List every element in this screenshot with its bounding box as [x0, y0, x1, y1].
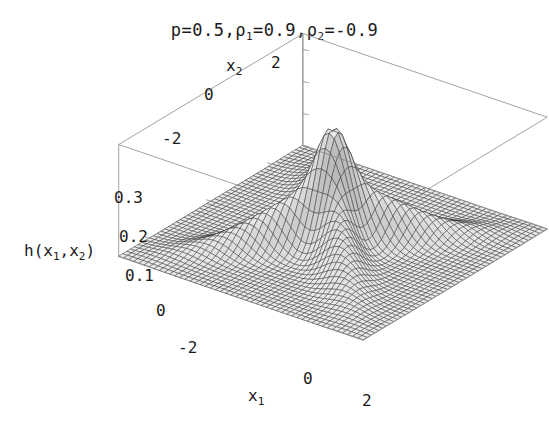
axis-label-x1: x1: [248, 388, 264, 404]
axis-label-z: h(x1,x2): [24, 243, 95, 259]
tick-x2-0: 0: [204, 87, 214, 103]
tick-z-01: 0.1: [125, 268, 154, 284]
axis-label-x2-base: x: [226, 56, 236, 75]
axis-label-x2-subscript: 2: [236, 65, 243, 78]
axis-label-x1-base: x: [248, 386, 258, 405]
tick-x1-2: 2: [362, 393, 372, 409]
axis-label-z-open: (: [34, 241, 44, 260]
tick-z-02: 0.2: [119, 229, 148, 245]
tick-x1-neg2: -2: [178, 340, 197, 356]
axis-label-x2: x2: [226, 58, 242, 74]
axis-label-x1-subscript: 1: [258, 395, 265, 408]
axis-label-z-x-first: x: [43, 241, 53, 260]
axis-label-z-subscript-1: 1: [53, 250, 60, 263]
axis-label-z-base: h: [24, 241, 34, 260]
axis-label-z-x-second: x: [69, 241, 79, 260]
axis-label-z-close: ): [85, 241, 95, 260]
axis-label-z-comma: ,: [60, 241, 70, 260]
tick-x2-2: 2: [271, 55, 281, 71]
axis-label-z-subscript-2: 2: [79, 250, 86, 263]
tick-x2-neg2: -2: [162, 131, 181, 147]
surface-plot-figure: p=0.5,ρ1=0.9,ρ2=-0.9 x2 x1 h(x1,x2) -2 0…: [0, 0, 549, 441]
tick-z-03: 0.3: [114, 190, 143, 206]
tick-x1-0: 0: [303, 371, 313, 387]
tick-z-0: 0: [156, 303, 166, 319]
